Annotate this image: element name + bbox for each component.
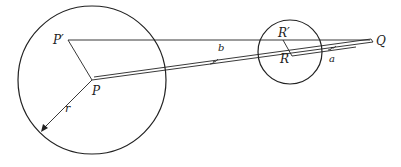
geometry-diagram: P′ P r b R′ R a Q xyxy=(0,0,401,167)
label-r: r xyxy=(65,102,71,115)
label-r-center: R xyxy=(279,52,289,66)
line-q-cap xyxy=(371,39,373,42)
label-p: P xyxy=(91,84,101,98)
label-r-prime: R′ xyxy=(277,26,290,40)
label-a: a xyxy=(329,53,335,64)
label-b: b xyxy=(218,42,224,53)
label-p-prime: P′ xyxy=(52,33,64,47)
line-pprime-p xyxy=(68,40,92,80)
label-q: Q xyxy=(376,34,386,48)
